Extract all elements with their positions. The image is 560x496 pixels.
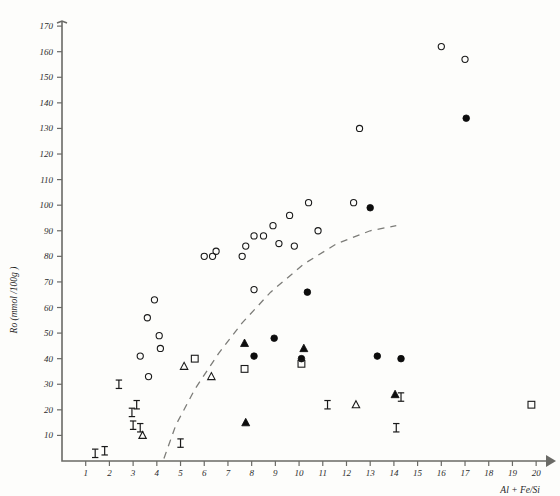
trend-curve xyxy=(164,226,396,459)
y-tick-label: 170 xyxy=(40,21,54,31)
point-open-circle xyxy=(462,56,468,62)
point-open-circle xyxy=(251,233,257,239)
point-ibeam xyxy=(393,424,399,432)
y-tick-label: 50 xyxy=(44,328,54,338)
series-open-square xyxy=(191,355,534,408)
point-filled-circle xyxy=(398,355,405,362)
x-tick-label: 6 xyxy=(202,468,207,478)
point-open-circle xyxy=(243,243,249,249)
point-filled-circle xyxy=(251,353,258,360)
x-tick-label: 15 xyxy=(413,468,423,478)
point-open-circle xyxy=(260,233,266,239)
point-open-circle xyxy=(286,212,292,218)
point-open-circle xyxy=(151,297,157,303)
point-open-triangle xyxy=(180,362,187,369)
x-tick-label: 16 xyxy=(437,468,447,478)
point-filled-circle xyxy=(463,115,470,122)
point-ibeam xyxy=(101,447,107,455)
point-open-circle xyxy=(351,200,357,206)
axis-lines xyxy=(62,21,548,461)
x-tick-label: 17 xyxy=(461,468,471,478)
point-filled-triangle xyxy=(242,418,250,426)
axes xyxy=(57,21,556,467)
x-tick-label: 4 xyxy=(155,468,160,478)
y-tick-label: 120 xyxy=(40,149,54,159)
x-tick-label: 18 xyxy=(484,468,494,478)
y-tick-label: 110 xyxy=(40,175,53,185)
point-open-circle xyxy=(291,243,297,249)
x-tick-label: 13 xyxy=(366,468,376,478)
point-ibeam xyxy=(92,449,98,457)
series-open-circle xyxy=(137,43,468,379)
point-open-circle xyxy=(137,353,143,359)
x-tick-label: 8 xyxy=(249,468,254,478)
series-filled-triangle xyxy=(241,339,400,426)
point-open-circle xyxy=(276,240,282,246)
point-open-square xyxy=(191,355,198,362)
x-tick-label: 5 xyxy=(178,468,183,478)
point-ibeam xyxy=(116,380,122,388)
point-open-circle xyxy=(251,287,257,293)
point-ibeam xyxy=(177,439,183,447)
y-tick-label: 30 xyxy=(43,379,54,389)
plot-canvas: 1020304050607080901001101201301401501601… xyxy=(0,0,560,496)
x-tick-label: 9 xyxy=(273,468,278,478)
y-axis-title: Ro (mmol /100g ) xyxy=(9,267,20,335)
x-tick-label: 3 xyxy=(130,468,136,478)
x-tick-label: 20 xyxy=(532,468,542,478)
x-tick-label: 10 xyxy=(295,468,305,478)
y-tick-label: 150 xyxy=(40,72,54,82)
x-tick-label: 19 xyxy=(508,468,518,478)
x-tick-label: 14 xyxy=(389,468,399,478)
y-tick-label: 90 xyxy=(44,226,54,236)
x-tick-label: 11 xyxy=(319,468,327,478)
point-open-circle xyxy=(438,43,444,49)
x-tick-label: 1 xyxy=(83,468,88,478)
x-tick-label: 7 xyxy=(226,468,231,478)
point-open-circle xyxy=(156,333,162,339)
point-open-circle xyxy=(305,200,311,206)
series-ibeam xyxy=(92,380,404,457)
y-tick-label: 60 xyxy=(44,303,54,313)
point-open-square xyxy=(528,401,535,408)
x-tick-label: 12 xyxy=(342,468,352,478)
point-open-circle xyxy=(157,345,163,351)
point-ibeam xyxy=(324,401,330,409)
y-tick-label: 100 xyxy=(40,200,54,210)
scatter-plot-figure: 1020304050607080901001101201301401501601… xyxy=(0,0,560,496)
point-filled-circle xyxy=(271,335,278,342)
point-open-circle xyxy=(270,223,276,229)
point-filled-circle xyxy=(367,204,374,211)
x-tick-label: 2 xyxy=(107,468,112,478)
point-open-circle xyxy=(144,315,150,321)
point-open-circle xyxy=(356,125,362,131)
trend-curve xyxy=(164,226,396,459)
point-open-circle xyxy=(213,248,219,254)
point-open-circle xyxy=(145,373,151,379)
point-filled-circle xyxy=(298,355,305,362)
point-open-triangle xyxy=(208,373,215,380)
x-axis-title: Al + Fe/Si xyxy=(499,485,540,495)
y-tick-label: 130 xyxy=(40,123,54,133)
x-axis-arrow xyxy=(546,455,556,467)
y-tick-label: 10 xyxy=(44,430,54,440)
y-tick-label: 140 xyxy=(40,98,54,108)
point-ibeam xyxy=(130,421,136,429)
point-filled-triangle xyxy=(300,344,308,352)
y-tick-label: 20 xyxy=(44,405,54,415)
axis-ticks: 1020304050607080901001101201301401501601… xyxy=(40,21,542,478)
point-filled-circle xyxy=(304,289,311,296)
point-filled-triangle xyxy=(241,339,249,347)
data-points xyxy=(92,43,535,457)
point-filled-triangle xyxy=(391,390,399,398)
point-open-circle xyxy=(239,253,245,259)
y-tick-label: 40 xyxy=(44,354,54,364)
point-open-triangle xyxy=(352,401,359,408)
point-open-circle xyxy=(315,228,321,234)
point-open-circle xyxy=(201,253,207,259)
y-tick-label: 160 xyxy=(40,47,54,57)
series-filled-circle xyxy=(251,115,470,362)
point-open-square xyxy=(241,366,248,373)
y-tick-label: 70 xyxy=(44,277,54,287)
y-tick-label: 80 xyxy=(44,251,54,261)
